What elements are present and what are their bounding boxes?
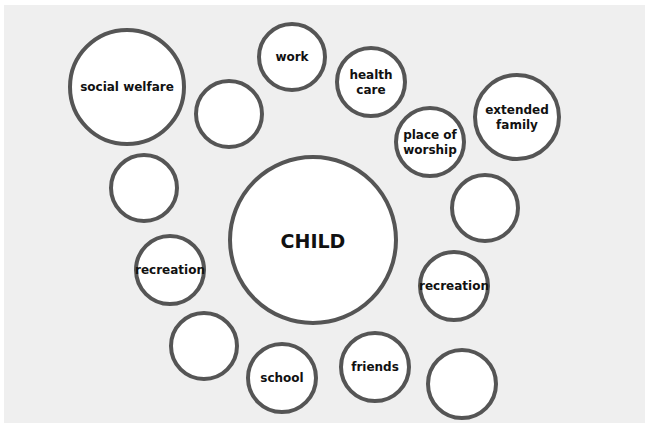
center-label: CHILD: [281, 230, 346, 252]
node-label: care: [356, 83, 385, 97]
node-blank-2: [111, 155, 177, 221]
node-recreation-left: recreation: [135, 236, 205, 304]
node-label: health: [349, 68, 392, 82]
node-label: place of: [403, 128, 457, 142]
ecosystem-diagram: CHILD social welfareworkhealthcareplace …: [0, 0, 649, 432]
node-blank-5: [428, 350, 496, 418]
node-label: recreation: [419, 279, 489, 293]
node-friends: friends: [341, 333, 409, 401]
node-label: worship: [403, 143, 457, 157]
node-label: extended: [485, 103, 549, 117]
node-label: work: [275, 50, 309, 64]
node-extended-family: extendedfamily: [475, 75, 559, 159]
center-node-child: CHILD: [230, 157, 396, 323]
node-label: recreation: [135, 263, 205, 277]
node-social-welfare: social welfare: [70, 30, 184, 144]
node-blank-3: [452, 175, 518, 241]
node-label: family: [496, 118, 538, 132]
node-circle: [111, 155, 177, 221]
node-circle: [171, 313, 237, 379]
node-circle: [452, 175, 518, 241]
node-circle: [196, 81, 262, 147]
node-health-care: healthcare: [337, 48, 405, 116]
node-recreation-right: recreation: [419, 252, 489, 320]
node-circle: [428, 350, 496, 418]
node-work: work: [259, 24, 325, 90]
node-label: social welfare: [80, 80, 174, 94]
node-blank-1: [196, 81, 262, 147]
node-label: school: [260, 371, 303, 385]
node-place-of-worship: place ofworship: [396, 108, 464, 176]
node-blank-4: [171, 313, 237, 379]
node-school: school: [248, 344, 316, 412]
node-label: friends: [351, 360, 399, 374]
